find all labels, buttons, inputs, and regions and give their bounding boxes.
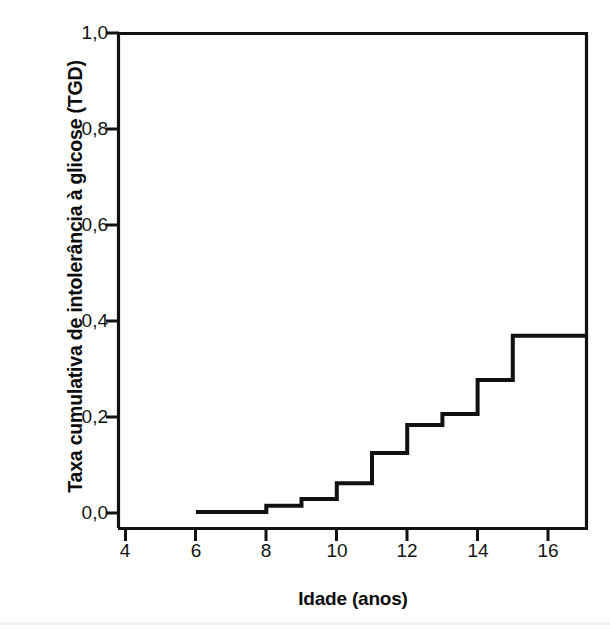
- axis-spines: [118, 32, 588, 529]
- x-tick-label-14: 14: [448, 540, 508, 562]
- x-tick-label-4: 4: [95, 540, 155, 562]
- x-axis-title: Idade (anos): [118, 588, 588, 610]
- x-tick-label-10: 10: [307, 540, 367, 562]
- x-tick-label-12: 12: [377, 540, 437, 562]
- figure-canvas: Taxa cumulativa de intolerância à glicos…: [0, 0, 610, 630]
- x-axis-tick-labels: 4 6 8 10 12 14 16: [0, 540, 610, 570]
- x-tick-label-16: 16: [518, 540, 578, 562]
- cumulative-incidence-step-curve: [196, 336, 587, 512]
- x-tick-label-6: 6: [166, 540, 226, 562]
- plot-area: [0, 0, 610, 630]
- x-tick-label-8: 8: [236, 540, 296, 562]
- scan-artifact: [0, 622, 610, 625]
